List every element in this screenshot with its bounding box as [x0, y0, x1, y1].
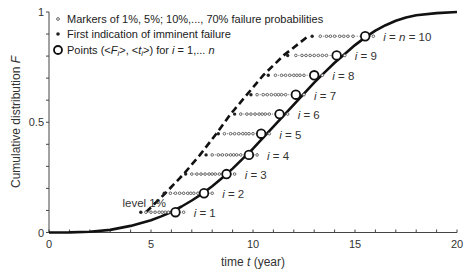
mean-point-circle-icon	[54, 46, 62, 54]
probability-marker-icon	[305, 54, 308, 57]
probability-marker-icon	[167, 211, 170, 214]
level-1-percent-dashed-line	[146, 36, 308, 212]
first-indication-dot-icon	[184, 172, 187, 175]
probability-marker-icon	[182, 192, 185, 195]
probability-marker-icon	[286, 113, 289, 116]
x-tick-label: 10	[247, 238, 259, 250]
row-label: i = 6	[298, 109, 320, 121]
probability-marker-icon	[347, 35, 350, 38]
probability-marker-icon	[274, 74, 277, 77]
legend: Markers of 1%, 5%; 10%,..., 70% failure …	[54, 13, 324, 58]
points-layer: i = 1i = 2i = 3i = 4i = 5i = 6i = 7i = 8…	[139, 31, 431, 219]
probability-marker-icon	[245, 132, 248, 135]
probability-marker-icon	[186, 192, 189, 195]
probability-marker-icon	[178, 192, 181, 195]
failure-row-9: i = 9	[286, 50, 377, 62]
legend-label: Markers of 1%, 5%; 10%,..., 70% failure …	[67, 13, 324, 25]
row-label: i = 7	[314, 90, 336, 102]
y-axis-title: Cumulative distribution F	[9, 55, 23, 188]
probability-marker-icon	[256, 154, 259, 157]
row-label: i = 4	[267, 150, 290, 162]
probability-marker-icon	[197, 192, 200, 195]
probability-marker-icon	[266, 93, 269, 96]
probability-marker-icon	[268, 132, 271, 135]
probability-marker-icon	[217, 154, 220, 157]
row-label: i = 8	[332, 70, 354, 82]
first-indication-dot-icon	[267, 74, 270, 77]
probability-marker-icon	[299, 74, 302, 77]
x-tick-label: 0	[46, 238, 52, 250]
probability-marker-icon	[277, 93, 280, 96]
legend-label: First indication of imminent failure	[67, 28, 231, 40]
probability-marker-icon	[309, 54, 312, 57]
mean-point-circle-icon	[200, 189, 209, 198]
first-indication-dot-icon	[204, 153, 207, 156]
failure-row-3: i = 3	[184, 169, 267, 181]
probability-marker-icon	[317, 54, 320, 57]
failure-row-6: i = 6	[233, 109, 320, 121]
mean-point-circle-icon	[257, 129, 266, 138]
first-indication-dot-icon	[163, 192, 166, 195]
probability-marker-icon	[154, 211, 157, 214]
probability-marker-icon	[223, 132, 226, 135]
y-tick-label: 1	[38, 6, 44, 18]
probability-marker-icon	[284, 93, 287, 96]
probability-marker-icon	[145, 211, 148, 214]
row-label: i = n = 10	[383, 31, 431, 43]
probability-marker-icon	[301, 54, 304, 57]
probability-marker-icon	[237, 132, 240, 135]
probability-marker-icon	[182, 211, 185, 214]
probability-marker-icon	[338, 35, 341, 38]
probability-marker-icon	[174, 192, 177, 195]
probability-marker-icon	[229, 132, 232, 135]
probability-marker-icon	[329, 35, 332, 38]
probability-marker-icon	[303, 93, 306, 96]
probability-marker-icon	[150, 211, 153, 214]
first-indication-dot-icon	[310, 35, 313, 38]
x-tick-label: 5	[148, 238, 154, 250]
probability-marker-icon	[321, 74, 324, 77]
x-tick-label: 15	[349, 238, 361, 250]
mean-point-circle-icon	[171, 208, 180, 217]
probability-marker-icon	[296, 74, 299, 77]
probability-marker-icon	[252, 132, 255, 135]
legend-item-1: Markers of 1%, 5%; 10%,..., 70% failure …	[57, 13, 324, 25]
probability-marker-icon	[193, 192, 196, 195]
probability-marker-icon	[344, 54, 347, 57]
probability-marker-icon	[246, 113, 249, 116]
probability-marker-icon	[239, 154, 242, 157]
mean-point-circle-icon	[222, 170, 231, 179]
probability-marker-icon	[235, 154, 238, 157]
probability-marker-icon	[270, 93, 273, 96]
legend-label: Points (<Fi>, <ti>) for i = 1,... n	[67, 44, 215, 58]
probability-marker-icon	[196, 173, 199, 176]
probability-marker-icon	[239, 113, 242, 116]
legend-item-3: Points (<Fi>, <ti>) for i = 1,... n	[54, 44, 215, 58]
probability-marker-icon	[333, 35, 336, 38]
probability-marker-icon	[211, 192, 214, 195]
probability-marker-icon	[284, 74, 287, 77]
probability-marker-icon	[268, 113, 271, 116]
probability-marker-icon	[280, 93, 283, 96]
probability-marker-icon	[218, 173, 221, 176]
probability-marker-icon	[233, 132, 236, 135]
first-indication-dot-icon	[217, 132, 220, 135]
first-indication-dot-icon	[139, 211, 142, 214]
mean-point-circle-icon	[332, 51, 341, 60]
first-indication-dot-icon	[286, 54, 289, 57]
x-tick-label: 20	[451, 238, 463, 250]
probability-marker-icon	[169, 192, 172, 195]
probability-marker-icon	[200, 173, 203, 176]
failure-row-4: i = 4	[204, 150, 289, 162]
mean-point-circle-icon	[361, 32, 370, 41]
row-label: i = 5	[279, 129, 301, 141]
failure-row-8: i = 8	[267, 70, 355, 82]
first-indication-dot-icon	[56, 32, 60, 36]
probability-marker-icon	[225, 154, 228, 157]
probability-marker-icon	[325, 35, 328, 38]
probability-marker-icon	[262, 93, 265, 96]
probability-marker-icon	[158, 211, 161, 214]
probability-marker-icon	[372, 35, 375, 38]
probability-marker-icon	[321, 54, 324, 57]
probability-marker-icon	[319, 35, 322, 38]
